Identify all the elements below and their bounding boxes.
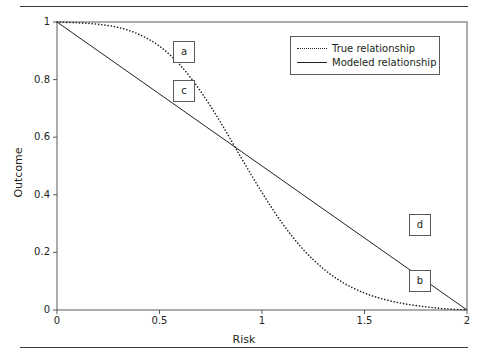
- legend-label: True relationship: [332, 43, 415, 54]
- y-tick-label: 0.8: [24, 75, 50, 85]
- legend-label: Modeled relationship: [332, 57, 436, 68]
- legend-swatch-solid-icon: [297, 57, 327, 67]
- y-tick-label: 0: [24, 305, 50, 315]
- annotation-box-d: d: [409, 214, 431, 236]
- x-axis-tick-marks: [57, 310, 467, 314]
- x-tick-label: 0.5: [152, 316, 168, 326]
- legend-swatch-dotted-icon: [297, 43, 327, 53]
- y-tick-label: 1: [24, 17, 50, 27]
- x-tick-label: 1: [259, 316, 265, 326]
- annotation-box-b: b: [409, 270, 431, 292]
- chart-figure: 00.511.52 00.20.40.60.81 Risk Outcome ac…: [0, 0, 488, 355]
- y-axis-tick-marks: [53, 22, 57, 310]
- legend-entry: True relationship: [297, 41, 433, 55]
- y-tick-label: 0.2: [24, 247, 50, 257]
- y-tick-label: 0.6: [24, 132, 50, 142]
- chart-legend: True relationshipModeled relationship: [290, 36, 440, 75]
- x-tick-label: 0: [54, 316, 60, 326]
- x-axis-title: Risk: [0, 333, 488, 346]
- x-tick-label: 2: [464, 316, 470, 326]
- annotation-box-a: a: [173, 41, 195, 63]
- y-tick-label: 0.4: [24, 190, 50, 200]
- y-axis-title: Outcome: [12, 133, 25, 213]
- annotation-box-c: c: [173, 80, 195, 102]
- legend-entry: Modeled relationship: [297, 55, 433, 69]
- x-tick-label: 1.5: [357, 316, 373, 326]
